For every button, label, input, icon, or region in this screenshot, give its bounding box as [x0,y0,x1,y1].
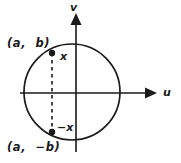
v-axis-label: v [70,2,77,13]
point-label-minus-x: −x [57,122,73,133]
point-label-a-b: (a, b) [7,38,50,50]
point-marker-minus-x [49,129,55,135]
point-label-a-minus-b: (a, −b) [7,142,60,154]
geometry-diagram [0,0,181,163]
figure-canvas: (a, b) x −x (a, −b) v u [0,0,181,163]
u-axis-arrowhead [145,88,157,99]
point-label-x: x [60,51,67,62]
v-axis-arrowhead [71,13,82,25]
u-axis-label: u [163,87,171,98]
point-marker-x [49,50,55,56]
